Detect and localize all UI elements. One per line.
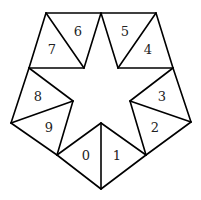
triangle-label-4: 4 [144, 42, 152, 57]
triangle-label-7: 7 [48, 42, 56, 57]
edge [156, 13, 173, 68]
edge [101, 123, 146, 155]
edge [130, 101, 191, 122]
triangle-label-6: 6 [74, 24, 82, 39]
triangle-label-1: 1 [113, 148, 121, 163]
edge [84, 13, 101, 68]
pentagon-star-diagram: 0 1 2 3 4 5 6 7 8 9 [0, 0, 201, 200]
edge [11, 101, 73, 123]
edge [11, 68, 29, 123]
edge [29, 13, 46, 68]
triangle-label-9: 9 [45, 120, 53, 135]
edge [130, 68, 173, 101]
triangle-label-2: 2 [151, 120, 159, 135]
edge [118, 13, 156, 68]
edge [57, 101, 73, 155]
edge [57, 123, 101, 155]
edge [101, 155, 146, 189]
edge [57, 155, 101, 189]
edge [173, 68, 191, 122]
edge [130, 101, 146, 155]
edge [46, 13, 84, 68]
triangle-label-3: 3 [158, 89, 166, 104]
triangle-label-0: 0 [82, 148, 90, 163]
triangle-label-8: 8 [34, 89, 42, 104]
edge [101, 13, 118, 68]
triangle-labels: 0 1 2 3 4 5 6 7 8 9 [34, 24, 166, 163]
triangle-label-5: 5 [121, 24, 129, 39]
